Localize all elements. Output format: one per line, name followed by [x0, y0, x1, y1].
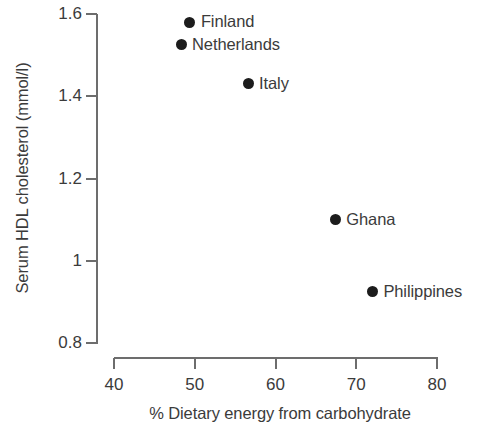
x-tick-mark	[194, 358, 196, 369]
x-tick-mark	[355, 358, 357, 369]
data-point-label-italy: Italy	[259, 74, 289, 93]
x-tick-mark	[275, 358, 277, 369]
data-point-finland[interactable]	[184, 17, 195, 28]
y-tick-mark	[86, 342, 97, 344]
y-tick-label: 1.4	[22, 87, 82, 104]
data-point-netherlands[interactable]	[176, 39, 187, 50]
y-tick-label: 0.8	[22, 334, 82, 351]
x-tick-label: 50	[165, 375, 225, 395]
data-point-label-ghana: Ghana	[346, 210, 395, 229]
x-tick-label: 60	[246, 375, 306, 395]
x-axis-title: % Dietary energy from carbohydrate	[100, 404, 460, 423]
x-tick-mark	[436, 358, 438, 369]
y-tick-mark	[86, 13, 97, 15]
data-point-label-netherlands: Netherlands	[192, 35, 280, 54]
y-tick-mark	[86, 95, 97, 97]
x-tick-label: 40	[84, 375, 144, 395]
y-tick-label: 1	[22, 252, 82, 269]
data-point-label-finland: Finland	[201, 12, 254, 31]
scatter-plot-figure: Serum HDL cholesterol (mmol/l) 0.811.21.…	[0, 0, 480, 434]
data-point-italy[interactable]	[243, 78, 254, 89]
data-point-philippines[interactable]	[367, 286, 378, 297]
data-point-label-philippines: Philippines	[383, 282, 462, 301]
y-tick-label: 1.6	[22, 5, 82, 22]
y-tick-label: 1.2	[22, 170, 82, 187]
x-tick-label: 80	[407, 375, 467, 395]
y-tick-mark	[86, 260, 97, 262]
y-tick-mark	[86, 178, 97, 180]
x-tick-mark	[113, 358, 115, 369]
x-tick-label: 70	[326, 375, 386, 395]
data-point-ghana[interactable]	[330, 214, 341, 225]
